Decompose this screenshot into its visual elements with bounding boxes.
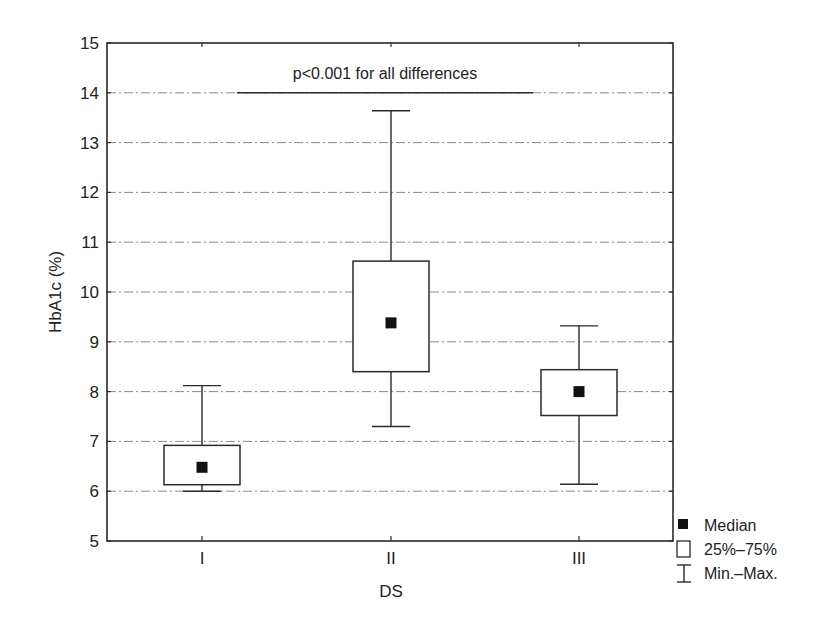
legend-label-range: Min.–Max. — [704, 565, 778, 582]
whisker-legend-icon — [677, 565, 691, 582]
y-tick-label: 7 — [90, 432, 99, 451]
y-tick-label: 11 — [81, 233, 99, 252]
y-tick-label: 10 — [80, 283, 99, 302]
median-legend-icon — [678, 519, 688, 529]
box-group-III — [541, 326, 617, 484]
y-tick-label: 6 — [90, 482, 99, 501]
y-tick-label: 12 — [80, 183, 99, 202]
x-tick-label: III — [572, 549, 586, 568]
significance-annotation: p<0.001 for all differences — [293, 65, 477, 82]
x-tick-label: I — [200, 549, 205, 568]
iqr-box — [353, 261, 429, 372]
legend: Median 25%–75% Min.–Max. — [677, 517, 778, 582]
y-axis-title: HbA1c (%) — [46, 251, 65, 333]
y-tick-label: 14 — [80, 84, 99, 103]
x-axis-title: DS — [379, 582, 403, 601]
box-group-II — [353, 111, 429, 427]
median-marker — [386, 317, 397, 328]
legend-label-iqr: 25%–75% — [704, 541, 777, 558]
x-tick-label: II — [386, 549, 395, 568]
box-legend-icon — [677, 541, 690, 557]
box-series — [164, 111, 617, 491]
legend-label-median: Median — [704, 517, 756, 534]
median-marker — [197, 462, 208, 473]
y-tick-label: 5 — [90, 532, 99, 551]
y-tick-label: 13 — [80, 134, 99, 153]
boxplot-chart: 56789101112131415 IIIIII p<0.001 for all… — [0, 0, 837, 622]
y-tick-label: 8 — [90, 383, 99, 402]
y-tick-label: 15 — [80, 34, 99, 53]
y-tick-label: 9 — [90, 333, 99, 352]
median-marker — [574, 386, 585, 397]
box-group-I — [164, 386, 240, 492]
